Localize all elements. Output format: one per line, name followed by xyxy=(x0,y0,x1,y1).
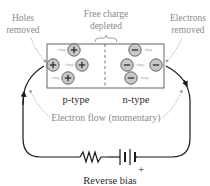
electron-flow-pointer-right xyxy=(163,90,182,117)
charge-tag-label: -charge xyxy=(51,76,61,80)
charge-tag-label: +charge xyxy=(139,76,149,80)
resistor-symbol xyxy=(80,152,108,162)
electrons-removed-pointer xyxy=(166,38,182,62)
free-charge-depleted-label: Free charge depleted xyxy=(84,9,128,31)
svg-text:Holes: Holes xyxy=(12,13,34,23)
charge-tag-label: -charge xyxy=(57,48,67,52)
depletion-brace xyxy=(95,35,117,42)
svg-text:Electrons: Electrons xyxy=(170,13,206,23)
charge-tag-label: +charge xyxy=(143,48,153,52)
reverse-bias-caption: Reverse bias xyxy=(83,175,136,186)
p-type-label: p-type xyxy=(63,94,90,105)
electron-flow-label: Electron flow (momentary) xyxy=(51,112,160,124)
holes-removed-label: Holes removed xyxy=(6,13,39,35)
electron-flow-pointer-left xyxy=(30,90,50,117)
battery-plus-sign: + xyxy=(138,163,144,175)
battery-symbol xyxy=(108,149,137,165)
svg-text:removed: removed xyxy=(171,25,204,35)
charge-tag-label: +charge xyxy=(135,63,145,67)
charge-tag-label: -charge xyxy=(65,63,75,67)
hole-plus-icon xyxy=(47,59,59,71)
svg-text:removed: removed xyxy=(6,25,39,35)
reverse-bias-diagram: Holes removed Free charge depleted Elect… xyxy=(0,0,210,186)
svg-text:Free charge: Free charge xyxy=(84,9,128,19)
electron-minus-icon xyxy=(150,59,162,71)
holes-removed-pointer xyxy=(31,38,46,62)
electrons-removed-label: Electrons removed xyxy=(170,13,206,35)
svg-text:depleted: depleted xyxy=(90,21,122,31)
n-type-label: n-type xyxy=(123,94,150,105)
